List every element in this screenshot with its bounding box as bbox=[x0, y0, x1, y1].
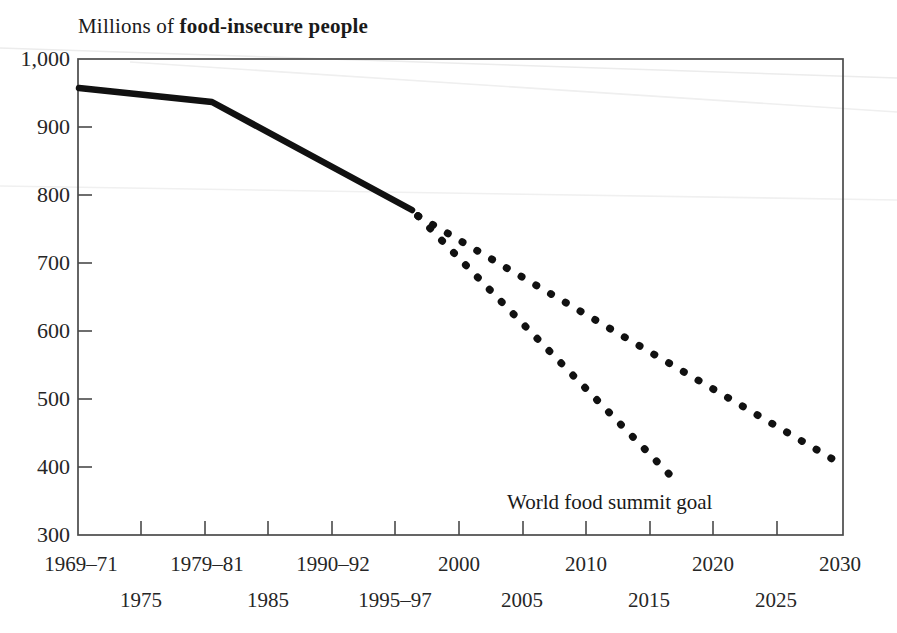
xtick-label-1969-71: 1969–71 bbox=[26, 552, 136, 577]
xtick-label-2025: 2025 bbox=[730, 588, 822, 613]
x-axis-ticks bbox=[141, 521, 777, 535]
xtick-label-1995-97: 1995–97 bbox=[340, 588, 450, 613]
scan-artifact-line bbox=[0, 186, 897, 200]
ytick-label-800: 800 bbox=[8, 182, 70, 208]
ytick-label-600: 600 bbox=[8, 318, 70, 344]
ytick-label-400: 400 bbox=[8, 454, 70, 480]
series-projected-trend-dotted bbox=[418, 216, 841, 464]
xtick-label-1985: 1985 bbox=[222, 588, 314, 613]
ytick-label-300: 300 bbox=[8, 522, 70, 548]
y-axis-ticks bbox=[78, 127, 92, 467]
xtick-label-2005: 2005 bbox=[476, 588, 568, 613]
chart-figure: Millions of food-insecure people bbox=[0, 0, 897, 633]
ytick-label-700: 700 bbox=[8, 250, 70, 276]
ytick-label-500: 500 bbox=[8, 386, 70, 412]
xtick-label-1975: 1975 bbox=[95, 588, 187, 613]
plot-area bbox=[0, 0, 897, 633]
xtick-label-2010: 2010 bbox=[540, 552, 632, 577]
scan-artifact-line bbox=[130, 62, 897, 112]
ytick-label-1000: 1,000 bbox=[8, 46, 70, 72]
annotation-world-food-summit-goal: World food summit goal bbox=[507, 490, 712, 515]
series-summit-goal-dotted bbox=[418, 216, 669, 474]
xtick-label-1979-81: 1979–81 bbox=[152, 552, 262, 577]
xtick-label-1990-92: 1990–92 bbox=[278, 552, 388, 577]
ytick-label-900: 900 bbox=[8, 114, 70, 140]
plot-frame bbox=[78, 59, 843, 535]
xtick-label-2020: 2020 bbox=[667, 552, 759, 577]
xtick-label-2030: 2030 bbox=[794, 552, 886, 577]
xtick-label-2000: 2000 bbox=[413, 552, 505, 577]
xtick-label-2015: 2015 bbox=[603, 588, 695, 613]
